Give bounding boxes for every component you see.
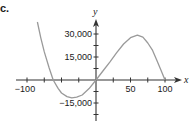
function-curve [37, 22, 165, 98]
y-tick-label: 15,000 [64, 52, 92, 62]
cubic-function-chart: −1005010030,00015,000−15,000 x y [0, 0, 194, 136]
x-tick-label: 50 [125, 84, 135, 94]
y-tick-label: −15,000 [59, 98, 92, 108]
x-tick-label: −100 [15, 84, 35, 94]
y-axis-label: y [92, 6, 98, 17]
x-axis-label: x [183, 74, 189, 85]
x-tick-label: 100 [157, 84, 172, 94]
y-tick-label: 30,000 [64, 29, 92, 39]
